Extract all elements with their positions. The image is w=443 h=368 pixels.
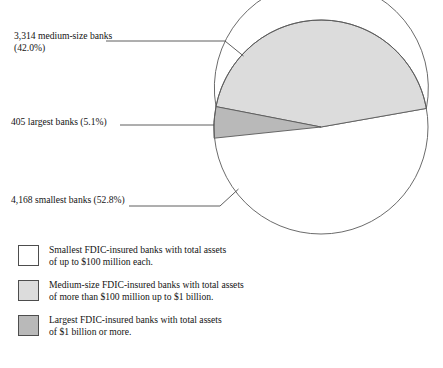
callout-label-medium: 3,314 medium-size banks (42.0%) — [14, 30, 112, 53]
legend-swatch-smallest — [18, 245, 39, 266]
legend-item-largest[interactable]: Largest FDIC-insured banks with total as… — [18, 314, 318, 338]
callout-label-smallest: 4,168 smallest banks (52.8%) — [11, 194, 125, 206]
legend-label-largest: Largest FDIC-insured banks with total as… — [49, 314, 222, 338]
legend-item-medium[interactable]: Medium-size FDIC-insured banks with tota… — [18, 279, 318, 303]
legend-label-smallest: Smallest FDIC-insured banks with total a… — [49, 244, 226, 268]
legend-label-medium: Medium-size FDIC-insured banks with tota… — [49, 279, 244, 303]
legend: Smallest FDIC-insured banks with total a… — [18, 244, 318, 348]
legend-item-smallest[interactable]: Smallest FDIC-insured banks with total a… — [18, 244, 318, 268]
leader-line-smallest — [129, 189, 239, 206]
pie-chart-figure: assets of FDIC-insured banks, by group 3… — [0, 0, 443, 368]
legend-swatch-largest — [18, 315, 39, 336]
legend-swatch-medium — [18, 280, 39, 301]
callout-label-largest: 405 largest banks (5.1%) — [11, 116, 107, 128]
